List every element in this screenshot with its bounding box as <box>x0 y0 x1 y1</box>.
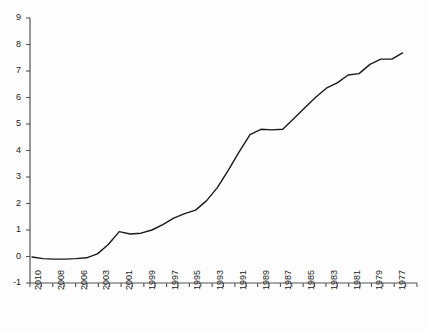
chart-axes <box>30 18 417 283</box>
x-axis-tick-label: 1987 <box>284 270 293 290</box>
y-axis-tick-label: 1 <box>5 225 21 234</box>
x-axis-tick-label: 2006 <box>80 270 89 290</box>
x-axis-tick-label: 1999 <box>148 270 157 290</box>
y-axis-tick-label: 6 <box>5 93 21 102</box>
y-axis-tick-label: 4 <box>5 146 21 155</box>
x-axis-tick-label: 1989 <box>262 270 271 290</box>
x-axis-tick-label: 2008 <box>57 270 66 290</box>
x-axis-tick-label: 2003 <box>102 270 111 290</box>
x-axis-tick-label: 2001 <box>125 270 134 290</box>
y-axis-tick-label: 3 <box>5 172 21 181</box>
x-axis-tick-label: 1991 <box>239 270 248 290</box>
x-axis-tick-label: 1997 <box>171 270 180 290</box>
y-axis-tick-label: 8 <box>5 40 21 49</box>
x-axis-tick-label: 1983 <box>330 270 339 290</box>
y-axis-tick-label: 9 <box>5 13 21 22</box>
x-axis-tick-label: 1993 <box>216 270 225 290</box>
x-axis-tick-label: 1995 <box>193 270 202 290</box>
x-axis-tick-label: 1985 <box>307 270 316 290</box>
x-axis-tick-label: 1981 <box>353 270 362 290</box>
data-series-group <box>32 53 403 259</box>
y-axis-tick-label: 2 <box>5 199 21 208</box>
x-axis-tick-label: 1979 <box>375 270 384 290</box>
y-axis-tick-label: 7 <box>5 66 21 75</box>
line-chart: 9876543210-1 201020082006200320011999199… <box>0 0 427 331</box>
y-axis-tick-label: -1 <box>5 278 21 287</box>
y-axis-tick-label: 0 <box>5 252 21 261</box>
y-axis-tick-label: 5 <box>5 119 21 128</box>
x-axis-tick-label: 2010 <box>34 270 43 290</box>
x-axis-tick-label: 1977 <box>398 270 407 290</box>
series-line <box>32 53 403 259</box>
